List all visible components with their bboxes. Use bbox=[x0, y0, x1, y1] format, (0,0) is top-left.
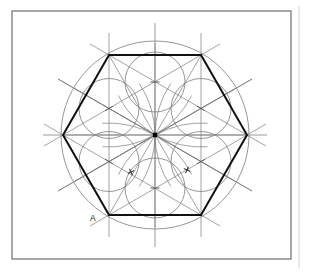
drawing-page: A bbox=[0, 0, 312, 274]
figure-caption bbox=[0, 263, 312, 274]
centre-point-dot bbox=[153, 133, 157, 137]
radial-line-1 bbox=[155, 135, 235, 181]
centre-point bbox=[153, 133, 157, 137]
technical-drawing: A bbox=[0, 0, 312, 274]
radial-line-7 bbox=[75, 89, 155, 135]
radial-line-11 bbox=[155, 89, 235, 135]
vertex-label-A: A bbox=[90, 213, 96, 223]
radial-line-5 bbox=[75, 135, 155, 181]
vertex-labels: A bbox=[90, 213, 96, 223]
